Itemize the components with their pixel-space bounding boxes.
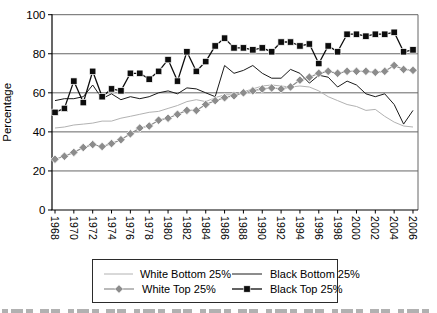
- square-marker-icon: [99, 94, 105, 100]
- square-marker-icon: [391, 29, 397, 35]
- y-tick-label: 0: [39, 204, 45, 216]
- square-marker-icon: [372, 31, 378, 37]
- diamond-marker-icon: [117, 135, 125, 143]
- square-marker-icon: [203, 58, 209, 64]
- square-marker-icon: [184, 49, 190, 55]
- square-marker-icon: [410, 47, 416, 53]
- square-marker-icon: [165, 56, 171, 62]
- square-marker-icon: [278, 39, 284, 45]
- chart-svg: 0204060801001968197019721974197619781980…: [0, 0, 437, 250]
- diamond-marker-icon: [126, 130, 134, 138]
- diamond-marker-icon: [173, 110, 181, 118]
- square-marker-icon: [325, 43, 331, 49]
- diamond-marker-icon: [390, 61, 398, 69]
- square-marker-icon: [52, 109, 58, 115]
- x-tick-label: 1970: [68, 216, 80, 240]
- x-tick-label: 1996: [313, 216, 325, 240]
- diamond-marker-icon: [296, 76, 304, 84]
- x-tick-label: 2000: [350, 216, 362, 240]
- diamond-marker-icon: [60, 152, 68, 160]
- square-marker-icon: [193, 68, 199, 74]
- square-marker-icon: [221, 35, 227, 41]
- square-marker-icon: [268, 49, 274, 55]
- x-tick-label: 1978: [143, 216, 155, 240]
- square-marker-icon: [353, 31, 359, 37]
- figure: 0204060801001968197019721974197619781980…: [0, 0, 437, 313]
- diamond-marker-icon: [164, 114, 172, 122]
- square-marker-icon: [146, 76, 152, 82]
- square-marker-icon: [400, 49, 406, 55]
- legend-item-white-top-25: White Top 25%: [103, 283, 231, 295]
- chart-legend: White Bottom 25%Black Bottom 25%White To…: [92, 259, 338, 303]
- square-marker-icon: [306, 41, 312, 47]
- legend-label: Black Bottom 25%: [270, 268, 360, 280]
- square-marker-icon: [118, 88, 124, 94]
- x-tick-label: 1990: [256, 216, 268, 240]
- square-marker-icon: [174, 78, 180, 84]
- legend-sample-square: [231, 283, 263, 295]
- diamond-marker-icon: [192, 106, 200, 114]
- y-tick-label: 80: [33, 48, 46, 60]
- y-tick-label: 20: [33, 165, 46, 177]
- x-tick-label: 1968: [49, 216, 61, 240]
- square-marker-icon: [287, 39, 293, 45]
- legend-sample-line: [103, 268, 133, 280]
- diamond-marker-icon: [79, 143, 87, 151]
- diamond-marker-icon: [136, 124, 144, 132]
- x-tick-label: 1972: [87, 216, 99, 240]
- square-marker-icon: [244, 285, 250, 291]
- square-marker-icon: [61, 105, 67, 111]
- x-tick-label: 1980: [162, 216, 174, 240]
- x-tick-label: 1976: [124, 216, 136, 240]
- diamond-marker-icon: [145, 122, 153, 130]
- diamond-marker-icon: [98, 142, 106, 150]
- legend-label: Black Top 25%: [270, 283, 343, 295]
- x-tick-label: 1982: [181, 216, 193, 240]
- x-tick-label: 1974: [106, 216, 118, 240]
- diamond-marker-icon: [154, 116, 162, 124]
- diamond-marker-icon: [115, 284, 123, 292]
- diamond-marker-icon: [286, 83, 294, 91]
- square-marker-icon: [127, 70, 133, 76]
- legend-item-black-bottom-25: Black Bottom 25%: [231, 268, 360, 280]
- x-tick-label: 1994: [294, 216, 306, 240]
- x-tick-label: 2002: [369, 216, 381, 240]
- y-axis-title: Percentage: [1, 83, 13, 142]
- y-tick-label: 60: [33, 87, 46, 99]
- diamond-marker-icon: [409, 66, 417, 74]
- x-tick-label: 2004: [388, 216, 400, 240]
- square-marker-icon: [89, 68, 95, 74]
- diamond-marker-icon: [343, 67, 351, 75]
- diamond-marker-icon: [239, 89, 247, 97]
- y-tick-label: 100: [26, 9, 45, 21]
- diamond-marker-icon: [371, 68, 379, 76]
- square-marker-icon: [344, 31, 350, 37]
- diamond-marker-icon: [352, 67, 360, 75]
- x-tick-label: 1984: [200, 216, 212, 240]
- square-marker-icon: [382, 31, 388, 37]
- square-marker-icon: [334, 49, 340, 55]
- x-tick-label: 2006: [407, 216, 419, 240]
- square-marker-icon: [250, 47, 256, 53]
- x-tick-label: 1998: [332, 216, 344, 240]
- diamond-marker-icon: [362, 67, 370, 75]
- diamond-marker-icon: [399, 65, 407, 73]
- x-tick-label: 1986: [219, 216, 231, 240]
- diamond-marker-icon: [324, 67, 332, 75]
- cropped-caption-strip: [2, 309, 433, 313]
- diamond-marker-icon: [88, 140, 96, 148]
- diamond-marker-icon: [70, 148, 78, 156]
- legend-label: White Bottom 25%: [140, 268, 231, 280]
- square-marker-icon: [231, 45, 237, 51]
- legend-item-white-bottom-25: White Bottom 25%: [103, 268, 231, 280]
- square-marker-icon: [155, 68, 161, 74]
- diamond-marker-icon: [107, 139, 115, 147]
- diamond-marker-icon: [380, 67, 388, 75]
- square-marker-icon: [212, 43, 218, 49]
- square-marker-icon: [297, 43, 303, 49]
- square-marker-icon: [80, 99, 86, 105]
- diamond-marker-icon: [333, 69, 341, 77]
- legend-sample-diamond: [103, 283, 135, 295]
- legend-sample-line: [231, 268, 263, 280]
- legend-item-black-top-25: Black Top 25%: [231, 283, 360, 295]
